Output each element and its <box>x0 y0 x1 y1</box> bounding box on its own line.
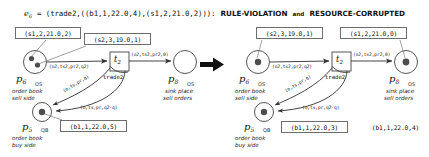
place-p5-left-desc2: buy side <box>12 142 36 149</box>
place-p5-left-name: p5 <box>22 121 32 133</box>
place-p6-left-name: p6 <box>16 73 26 85</box>
place-p6-left-sub: 6 <box>22 78 26 85</box>
event-expression: = (trade2,((b1,1,22.0,4),(s1,2,21.0,2)))… <box>37 9 215 18</box>
box-s2-left-text: (s2,3,19.0,1) <box>94 36 141 43</box>
box-b1-right-out-text: (b1,1,22.0,4) <box>372 124 419 131</box>
place-p5-right-name: p5 <box>244 121 254 133</box>
transition-t2-left-name: t2 <box>114 54 121 65</box>
box-b1-right-in: (b1,1,22.0,3) <box>281 121 348 133</box>
place-p8-right-desc2: sell orders <box>384 95 413 102</box>
arc-p6-t2-left-label: (o2,ts2,pr2,q2) <box>49 64 89 69</box>
box-s2-right-text: (s2,3,19.0,1) <box>266 30 313 37</box>
arc-t2-p5-left-label: (o,ts,pr,q) <box>62 74 90 93</box>
place-p8-left-desc2: sell orders <box>163 95 192 102</box>
transition-t2-left-sub: 2 <box>117 59 120 65</box>
place-p8-left-type: OS <box>187 81 194 87</box>
place-p8-right-type: OS <box>408 81 415 87</box>
big-right-arrow <box>200 58 224 72</box>
place-p5-right-sub: 5 <box>250 126 254 133</box>
place-p8-left-name: p8 <box>168 73 178 85</box>
arc-p5-t2-right-label: (o,ts,pr,q2-q) <box>302 105 339 110</box>
box-b1-right-out: (b1,1,22.0,4) <box>362 121 429 133</box>
box-b1-left-text: (b1,1,22.0,5) <box>70 123 117 130</box>
box-s1-right: (s1,2,21.0,0) <box>340 27 407 39</box>
violation-tag: RULE-VIOLATION <box>221 9 288 18</box>
arc-t2-p8-left-label: (o2,ts2,pr2,0) <box>131 52 168 57</box>
place-p8-right-sub: 8 <box>395 78 399 85</box>
corruption-tag: RESOURCE-CORRUPTED <box>309 9 405 18</box>
place-p5-right-desc2: buy side <box>235 142 259 149</box>
box-s2-right: (s2,3,19.0,1) <box>256 27 323 39</box>
box-b1-right-in-text: (b1,1,22.0,3) <box>291 124 338 131</box>
arc-t2-p8-right-label: (o2,ts2,pr2,0) <box>353 52 390 57</box>
transition-t2-left-label: trade2 <box>103 74 123 80</box>
place-p5-left-type: QB <box>41 127 48 133</box>
place-p6-left-desc2: sell side <box>12 95 35 102</box>
figure-caption: e6 = (trade2,((b1,1,22.0,4),(s1,2,21.0,2… <box>0 1 429 17</box>
transition-t2-right-name: t2 <box>336 54 343 65</box>
place-p8-right-name: p8 <box>389 73 399 85</box>
box-s1-right-text: (s1,2,21.0,0) <box>350 30 397 37</box>
figure-root: e6 = (trade2,((b1,1,22.0,4),(s1,2,21.0,2… <box>0 0 429 157</box>
place-p6-right-sub: 6 <box>245 78 249 85</box>
place-p5-right-type: QB <box>263 127 270 133</box>
arc-p5-t2-left-label: (o,ts,pr,q2-q) <box>80 105 117 110</box>
graph-edges <box>0 0 429 157</box>
place-p6-left-type: OS <box>35 81 42 87</box>
place-p6-right-name: p6 <box>239 73 249 85</box>
arc-p6-t2-right-label: (o2,ts2,pr2,q2) <box>272 64 312 69</box>
transition-t2-right-sub: 2 <box>339 59 342 65</box>
transition-t2-right-label: trade2 <box>325 74 345 80</box>
event-subscript: 6 <box>29 13 32 19</box>
conjunction-label: and <box>293 11 305 17</box>
place-p8-left-sub: 8 <box>174 78 178 85</box>
place-p6-right-type: OS <box>258 81 265 87</box>
box-b1-left: (b1,1,22.0,5) <box>60 120 127 132</box>
place-p6-right-desc2: sell side <box>235 95 258 102</box>
box-s2-left: (s2,3,19.0,1) <box>84 33 151 45</box>
box-s1-left: (s1,2,21.0,2) <box>15 27 81 39</box>
place-p5-left-sub: 5 <box>28 126 32 133</box>
arc-t2-p5-right-label: (o,ts,pr,q) <box>284 74 312 93</box>
box-s1-left-text: (s1,2,21.0,2) <box>24 30 71 37</box>
